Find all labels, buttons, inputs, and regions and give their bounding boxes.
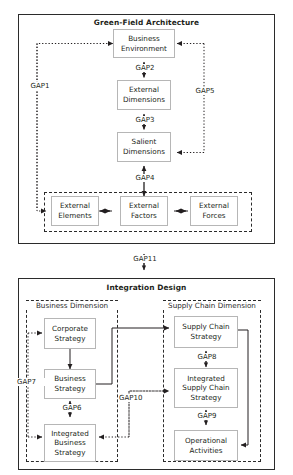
node-label-external-factors: External Factors [129, 201, 159, 220]
node-label-supply-chain-strategy: Supply Chain Strategy [182, 322, 229, 341]
gap-label-gap2: GAP2 [129, 64, 161, 72]
gap-label-gap7: GAP7 [16, 378, 48, 386]
node-corporate-strategy[interactable]: Corporate Strategy [44, 318, 96, 349]
node-label-external-dimensions: External Dimensions [123, 85, 165, 104]
gap-label-gap3: GAP3 [129, 116, 161, 124]
node-label-operational-activities: Operational Activities [185, 436, 227, 455]
gap-label-gap8: GAP8 [191, 353, 223, 361]
diagram-canvas: Green-Field Architecture Business Enviro… [0, 0, 293, 475]
node-label-integrated-supply-chain-strategy: Integrated Supply Chain Strategy [182, 374, 229, 403]
node-label-integrated-business-strategy: Integrated Business Strategy [51, 429, 89, 458]
gap-label-gap4: GAP4 [129, 174, 161, 182]
node-external-forces[interactable]: External Forces [190, 196, 238, 226]
group-title-business-dimension: Business Dimension [26, 301, 118, 310]
node-integrated-supply-chain-strategy[interactable]: Integrated Supply Chain Strategy [174, 368, 238, 408]
panel-title-integration-design: Integration Design [18, 283, 275, 292]
node-supply-chain-strategy[interactable]: Supply Chain Strategy [174, 316, 238, 348]
node-operational-activities[interactable]: Operational Activities [174, 430, 238, 461]
gap-label-gap1: GAP1 [24, 82, 56, 90]
node-label-corporate-strategy: Corporate Strategy [52, 324, 88, 343]
node-label-salient-dimensions: Salient Dimensions [123, 137, 165, 156]
top-edge-artifact [0, 0, 293, 9]
node-label-business-environment: Business Environment [121, 34, 167, 53]
node-business-environment[interactable]: Business Environment [113, 29, 175, 58]
node-external-dimensions[interactable]: External Dimensions [117, 80, 171, 110]
group-title-supply-chain-dimension: Supply Chain Dimension [163, 301, 261, 310]
node-integrated-business-strategy[interactable]: Integrated Business Strategy [44, 424, 96, 462]
gap-label-gap9: GAP9 [191, 412, 223, 420]
node-external-factors[interactable]: External Factors [120, 196, 168, 226]
node-salient-dimensions[interactable]: Salient Dimensions [117, 132, 171, 162]
node-label-business-strategy: Business Strategy [54, 374, 86, 393]
gap-label-gap11: GAP11 [129, 255, 161, 263]
gap-label-gap10: GAP10 [118, 394, 154, 402]
gap-label-gap6: GAP6 [56, 404, 88, 412]
node-external-elements[interactable]: External Elements [51, 196, 99, 226]
node-label-external-forces: External Forces [199, 201, 229, 220]
panel-title-green-field-architecture: Green-Field Architecture [18, 18, 275, 27]
node-business-strategy[interactable]: Business Strategy [44, 369, 96, 399]
node-label-external-elements: External Elements [58, 201, 92, 220]
gap-label-gap5: GAP5 [189, 87, 221, 95]
